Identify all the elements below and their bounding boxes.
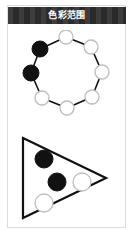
diagram-area (8, 26, 126, 227)
ring-node-right[interactable] (95, 65, 109, 79)
ring-node-upper-right[interactable] (84, 40, 98, 54)
triangle-node-lower-white[interactable] (35, 194, 53, 212)
triangle-node-upper-black[interactable] (35, 150, 53, 168)
ring-node-bottom-left[interactable] (35, 91, 49, 105)
page-title: 色彩范围 (48, 11, 86, 20)
panel-title-bar[interactable]: 色彩范围 (8, 7, 126, 24)
ring-node-left[interactable] (23, 65, 39, 81)
triangle-node-middle-white[interactable] (73, 173, 91, 191)
triangle-node-middle-black[interactable] (48, 173, 66, 191)
color-range-panel: 色彩范围 (0, 0, 134, 231)
ring-node-lower-right[interactable] (85, 90, 99, 104)
ring-node-bottom[interactable] (60, 101, 74, 115)
ring-node-group (23, 30, 109, 115)
node-ring-diagram (8, 30, 126, 126)
triangle-diagram (8, 134, 126, 226)
ring-node-upper-left[interactable] (32, 41, 48, 57)
ring-node-top[interactable] (59, 30, 73, 44)
